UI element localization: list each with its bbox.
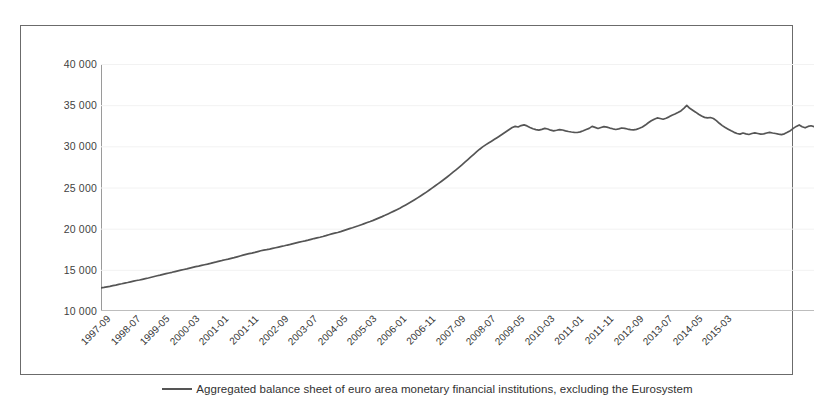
gridlines <box>101 65 814 312</box>
x-axis-tick-label: 2002-09 <box>256 313 290 347</box>
x-axis-tick-label: 1998-07 <box>108 313 142 347</box>
x-axis-tick-label: 2006-01 <box>374 313 408 347</box>
y-axis-tick-label: 20 000 <box>64 223 97 235</box>
x-axis-tick-label: 2012-09 <box>611 313 645 347</box>
x-axis: 1997-091998-071999-052000-032001-012001-… <box>101 313 814 375</box>
y-axis-tick-label: 15 000 <box>64 264 97 276</box>
x-axis-tick-label: 2011-01 <box>552 313 586 347</box>
data-line-series-0 <box>101 105 814 288</box>
legend-entry: Aggregated balance sheet of euro area mo… <box>162 383 692 395</box>
x-axis-tick-label: 2007-09 <box>434 313 468 347</box>
x-axis-tick-label: 2009-05 <box>493 313 527 347</box>
y-axis-tick-label: 25 000 <box>64 182 97 194</box>
x-axis-tick-label: 2014-05 <box>670 313 704 347</box>
chart-frame: 10 00015 00020 00025 00030 00035 00040 0… <box>20 25 793 375</box>
legend-line-swatch-icon <box>162 388 192 390</box>
y-axis: 10 00015 00020 00025 00030 00035 00040 0… <box>43 64 97 311</box>
x-axis-tick-label: 2001-01 <box>197 313 231 347</box>
y-axis-tick-label: 35 000 <box>64 99 97 111</box>
x-axis-tick-label: 2005-03 <box>345 313 379 347</box>
x-axis-tick-label: 2003-07 <box>286 313 320 347</box>
y-axis-tick-label: 30 000 <box>64 140 97 152</box>
chart-legend: Aggregated balance sheet of euro area mo… <box>41 378 814 398</box>
x-axis-tick-label: 1997-09 <box>79 313 113 347</box>
x-axis-tick-label: 2011-11 <box>583 313 616 346</box>
x-axis-tick-label: 1999-05 <box>138 313 172 347</box>
x-axis-tick-label: 2015-03 <box>700 313 734 347</box>
x-axis-tick-label: 2006-11 <box>404 313 438 347</box>
line-chart-svg <box>101 64 814 311</box>
x-axis-tick-label: 2008-07 <box>463 313 497 347</box>
x-axis-tick-label: 2010-03 <box>522 313 556 347</box>
plot-area <box>101 64 814 311</box>
y-axis-tick-label: 10 000 <box>64 305 97 317</box>
legend-label: Aggregated balance sheet of euro area mo… <box>196 383 692 395</box>
x-axis-tick-label: 2013-07 <box>641 313 675 347</box>
x-axis-tick-label: 2004-05 <box>315 313 349 347</box>
y-axis-tick-label: 40 000 <box>64 58 97 70</box>
x-axis-tick-label: 2001-11 <box>227 313 261 347</box>
x-axis-tick-label: 2000-03 <box>167 313 201 347</box>
